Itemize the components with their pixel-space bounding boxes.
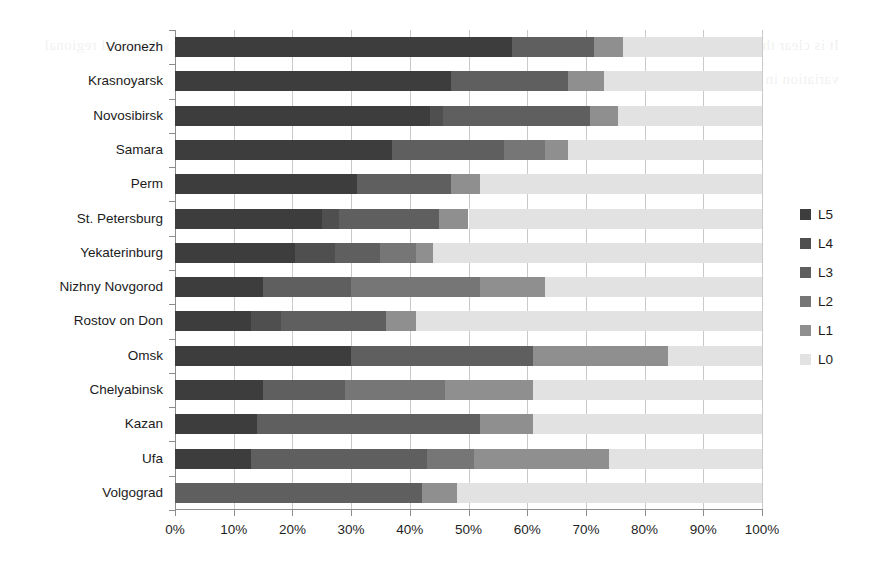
legend-item-l2[interactable]: L2 (800, 287, 833, 316)
bar-segment-l5[interactable] (175, 71, 451, 91)
bar-segment-l4[interactable] (251, 311, 280, 331)
bar-row[interactable]: Rostov on Don (175, 311, 762, 331)
bar-row[interactable]: Kazan (175, 414, 762, 434)
y-axis-tick (169, 510, 175, 511)
bar-segment-l4[interactable] (295, 243, 336, 263)
x-axis-tick-label: 40% (396, 522, 423, 537)
bar-segment-l5[interactable] (175, 449, 251, 469)
bar-segment-l3[interactable] (263, 277, 351, 297)
bar-segment-l0[interactable] (457, 483, 762, 503)
bar-row[interactable]: Chelyabinsk (175, 380, 762, 400)
bar-segment-l3[interactable] (257, 414, 480, 434)
bar-segment-l0[interactable] (416, 311, 762, 331)
bar-segment-l1[interactable] (480, 414, 533, 434)
bar-segment-l1[interactable] (422, 483, 457, 503)
bar-segment-l1[interactable] (386, 311, 415, 331)
bar-segment-l5[interactable] (175, 243, 295, 263)
legend-item-l1[interactable]: L1 (800, 316, 833, 345)
bar-segment-l0[interactable] (469, 209, 763, 229)
bar-segment-l0[interactable] (609, 449, 762, 469)
bar-segment-l2[interactable] (380, 243, 415, 263)
bar-segment-l3[interactable] (251, 449, 427, 469)
bar-segment-l2[interactable] (351, 277, 480, 297)
legend-item-l4[interactable]: L4 (800, 229, 833, 258)
bar-segment-l1[interactable] (480, 277, 545, 297)
bar-segment-l1[interactable] (445, 380, 533, 400)
y-axis-category-label: Nizhny Novgorod (0, 277, 163, 297)
y-axis-tick (169, 339, 175, 340)
y-axis-category-label: Voronezh (0, 37, 163, 57)
bar-segment-l5[interactable] (175, 277, 263, 297)
bar-segment-l0[interactable] (480, 174, 762, 194)
y-axis-tick (169, 476, 175, 477)
bar-segment-l1[interactable] (568, 71, 603, 91)
bar-segment-l3[interactable] (512, 37, 594, 57)
y-axis-category-label: Krasnoyarsk (0, 71, 163, 91)
bar-segment-l1[interactable] (545, 140, 568, 160)
bar-row[interactable]: Volgograd (175, 483, 762, 503)
bar-segment-l5[interactable] (175, 346, 351, 366)
bar-segment-l0[interactable] (618, 106, 762, 126)
legend-item-l0[interactable]: L0 (800, 345, 833, 374)
bar-row[interactable]: Krasnoyarsk (175, 71, 762, 91)
bar-row[interactable]: Nizhny Novgorod (175, 277, 762, 297)
bar-row[interactable]: Samara (175, 140, 762, 160)
bar-segment-l1[interactable] (439, 209, 468, 229)
y-axis-tick (169, 99, 175, 100)
bar-segment-l1[interactable] (474, 449, 609, 469)
bar-segment-l5[interactable] (175, 140, 392, 160)
bar-segment-l3[interactable] (281, 311, 387, 331)
bar-segment-l2[interactable] (427, 449, 474, 469)
bar-segment-l2[interactable] (345, 380, 445, 400)
y-axis-tick (169, 201, 175, 202)
bar-segment-l3[interactable] (339, 209, 439, 229)
bar-segment-l5[interactable] (175, 174, 357, 194)
bar-segment-l3[interactable] (335, 243, 380, 263)
x-axis-tick (586, 510, 587, 516)
bar-segment-l0[interactable] (668, 346, 762, 366)
bar-row[interactable]: Novosibirsk (175, 106, 762, 126)
bar-segment-l2[interactable] (504, 140, 545, 160)
bar-segment-l0[interactable] (568, 140, 762, 160)
bar-row[interactable]: Yekaterinburg (175, 243, 762, 263)
bar-segment-l1[interactable] (451, 174, 480, 194)
bar-segment-l3[interactable] (392, 140, 504, 160)
bar-segment-l0[interactable] (623, 37, 762, 57)
y-axis-category-label: Chelyabinsk (0, 380, 163, 400)
bar-segment-l5[interactable] (175, 209, 322, 229)
y-axis-tick (169, 441, 175, 442)
bar-segment-l4[interactable] (430, 106, 443, 126)
bar-segment-l3[interactable] (351, 346, 533, 366)
bar-segment-l5[interactable] (175, 414, 257, 434)
bar-segment-l1[interactable] (533, 346, 668, 366)
bar-segment-l3[interactable] (175, 483, 422, 503)
bar-segment-l1[interactable] (594, 37, 623, 57)
bar-segment-l3[interactable] (443, 106, 590, 126)
bar-segment-l5[interactable] (175, 106, 430, 126)
bar-row[interactable]: Voronezh (175, 37, 762, 57)
bar-segment-l3[interactable] (451, 71, 568, 91)
bar-segment-l0[interactable] (604, 71, 762, 91)
legend-label: L4 (818, 236, 833, 251)
bar-row[interactable]: St. Petersburg (175, 209, 762, 229)
bar-row[interactable]: Perm (175, 174, 762, 194)
bar-segment-l5[interactable] (175, 311, 251, 331)
bar-segment-l5[interactable] (175, 37, 512, 57)
bar-segment-l3[interactable] (263, 380, 345, 400)
x-axis-tick-label: 90% (690, 522, 717, 537)
bar-segment-l4[interactable] (322, 209, 340, 229)
bar-segment-l1[interactable] (416, 243, 434, 263)
x-axis-tick (469, 510, 470, 516)
bar-segment-l0[interactable] (545, 277, 762, 297)
bar-segment-l1[interactable] (590, 106, 618, 126)
y-axis-category-label: Kazan (0, 414, 163, 434)
legend-item-l5[interactable]: L5 (800, 200, 833, 229)
bar-row[interactable]: Ufa (175, 449, 762, 469)
legend-item-l3[interactable]: L3 (800, 258, 833, 287)
bar-row[interactable]: Omsk (175, 346, 762, 366)
bar-segment-l5[interactable] (175, 380, 263, 400)
bar-segment-l3[interactable] (357, 174, 451, 194)
bar-segment-l0[interactable] (433, 243, 762, 263)
bar-segment-l0[interactable] (533, 380, 762, 400)
bar-segment-l0[interactable] (533, 414, 762, 434)
